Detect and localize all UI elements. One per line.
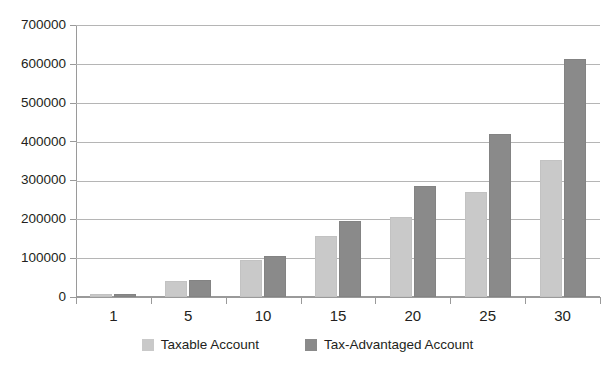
y-tick-label: 500000 [0,96,66,110]
legend-label: Taxable Account [161,337,259,352]
bar-20-advantaged [414,186,436,297]
bar-20-taxable [390,217,412,297]
bar-15-taxable [315,236,337,297]
legend-entry-tax-advantaged-account: Tax-Advantaged Account [305,337,473,352]
x-tick-label: 1 [76,307,151,324]
gridline-100000 [76,258,600,259]
y-tick-label: 300000 [0,173,66,187]
y-tick-label: 200000 [0,212,66,226]
plot-area [76,25,600,297]
bar-30-advantaged [564,59,586,297]
bar-chart: 700000 600000 500000 400000 300000 20000… [0,0,615,373]
legend-entry-taxable-account: Taxable Account [142,337,259,352]
gridline-600000 [76,64,600,65]
gridline-400000 [76,142,600,143]
x-tick-mark [600,297,601,304]
x-tick-mark [76,297,77,304]
x-tick-mark [301,297,302,304]
x-tick-mark [151,297,152,304]
bar-5-advantaged [189,280,211,297]
x-tick-mark [525,297,526,304]
bar-25-advantaged [489,134,511,297]
bar-10-taxable [240,260,262,297]
y-axis-tick-labels: 700000 600000 500000 400000 300000 20000… [0,0,66,373]
gridline-300000 [76,181,600,182]
bar-10-advantaged [264,256,286,297]
legend-swatch-icon [305,339,317,351]
x-axis-line [76,297,600,298]
x-tick-label: 25 [450,307,525,324]
y-tick-label: 0 [0,290,66,304]
x-tick-label: 10 [226,307,301,324]
y-tick-label: 400000 [0,135,66,149]
gridline-500000 [76,103,600,104]
x-tick-label: 5 [151,307,226,324]
legend-swatch-icon [142,339,154,351]
x-tick-label: 15 [301,307,376,324]
y-tick-label: 700000 [0,18,66,32]
bar-5-taxable [165,281,187,297]
bar-25-taxable [465,192,487,297]
x-tick-label: 20 [375,307,450,324]
y-tick-label: 600000 [0,57,66,71]
gridline-700000 [76,25,600,26]
x-tick-mark [226,297,227,304]
gridline-200000 [76,219,600,220]
bar-30-taxable [540,160,562,297]
x-tick-mark [450,297,451,304]
x-tick-mark [375,297,376,304]
chart-legend: Taxable Account Tax-Advantaged Account [0,337,615,352]
bar-15-advantaged [339,221,361,297]
y-tick-label: 100000 [0,251,66,265]
x-tick-label: 30 [525,307,600,324]
legend-label: Tax-Advantaged Account [324,337,473,352]
